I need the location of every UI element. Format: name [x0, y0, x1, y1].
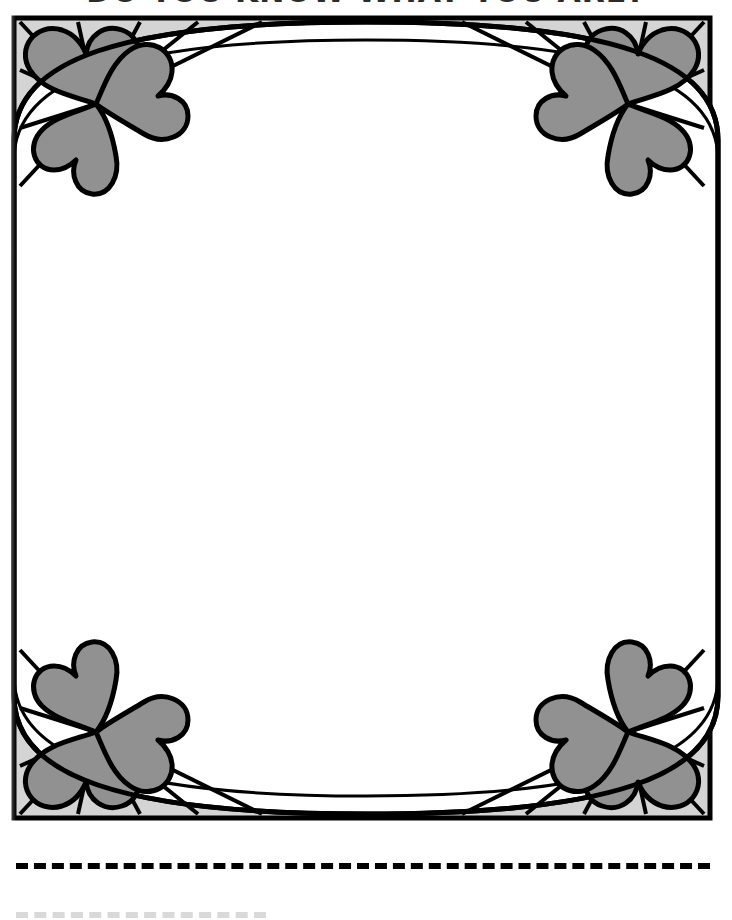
dashed-rule-primary: [16, 863, 710, 869]
blank-writing-oval[interactable]: [70, 120, 650, 710]
dashed-rule-secondary: [16, 912, 266, 918]
worksheet-page: DO YOU KNOW WHAT YOU ARE?: [0, 0, 732, 920]
dashed-rule-secondary-clip: [16, 912, 266, 920]
